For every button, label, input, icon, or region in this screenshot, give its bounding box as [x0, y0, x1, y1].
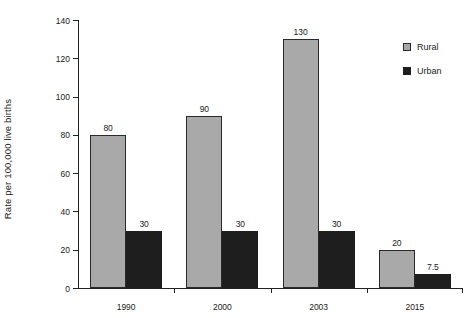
bar-urban-2015[interactable]: 7.5 [415, 274, 451, 288]
y-axis-tick-label: 40 [61, 207, 70, 217]
bar-value-label: 30 [236, 219, 245, 229]
bar-urban-2000[interactable]: 30 [222, 231, 258, 288]
y-axis-title: Rate per 100,000 live births [0, 0, 14, 318]
x-axis-tick [462, 288, 463, 293]
bar-value-label: 30 [332, 219, 341, 229]
bar-chart: Rate per 100,000 live births 02040608010… [0, 0, 472, 318]
urban-swatch-icon [403, 67, 411, 75]
x-axis-label-1990: 1990 [117, 302, 136, 312]
x-axis-tick [174, 288, 175, 293]
y-axis-tick: 80 [73, 135, 78, 136]
rural-swatch-icon [403, 43, 411, 51]
bar-value-label: 7.5 [427, 262, 439, 272]
bar-rural-2015[interactable]: 20 [379, 250, 415, 288]
legend-label-urban: Urban [417, 66, 442, 76]
y-axis-tick: 100 [73, 97, 78, 98]
bar-urban-1990[interactable]: 30 [126, 231, 162, 288]
bar-value-label: 90 [200, 104, 209, 114]
legend-label-rural: Rural [417, 42, 439, 52]
y-axis-tick: 60 [73, 173, 78, 174]
bar-rural-2003[interactable]: 130 [283, 39, 319, 288]
x-axis-label-2015: 2015 [405, 302, 424, 312]
bar-rural-2000[interactable]: 90 [186, 116, 222, 288]
bar-rural-1990[interactable]: 80 [90, 135, 126, 288]
y-axis-line [78, 20, 79, 288]
y-axis-tick-label: 20 [61, 245, 70, 255]
bar-value-label: 130 [294, 27, 308, 37]
bar-urban-2003[interactable]: 30 [319, 231, 355, 288]
x-axis-tick [367, 288, 368, 293]
y-axis-tick: 140 [73, 20, 78, 21]
y-axis-tick-label: 80 [61, 130, 70, 140]
bar-value-label: 80 [103, 123, 112, 133]
x-axis-tick [271, 288, 272, 293]
legend-item-urban[interactable]: Urban [403, 66, 442, 76]
y-axis-tick-label: 0 [65, 284, 70, 294]
bar-value-label: 30 [139, 219, 148, 229]
bar-value-label: 20 [392, 238, 401, 248]
y-axis-tick: 40 [73, 211, 78, 212]
y-axis-tick-label: 120 [56, 54, 70, 64]
y-axis-tick-label: 140 [56, 16, 70, 26]
x-axis-label-2000: 2000 [213, 302, 232, 312]
x-axis-label-2003: 2003 [309, 302, 328, 312]
y-axis-tick: 0 [73, 288, 78, 289]
chart-legend: Rural Urban [403, 42, 442, 90]
y-axis-tick-label: 100 [56, 92, 70, 102]
y-axis-tick-label: 60 [61, 169, 70, 179]
legend-item-rural[interactable]: Rural [403, 42, 442, 52]
y-axis-tick: 20 [73, 250, 78, 251]
y-axis-tick: 120 [73, 58, 78, 59]
